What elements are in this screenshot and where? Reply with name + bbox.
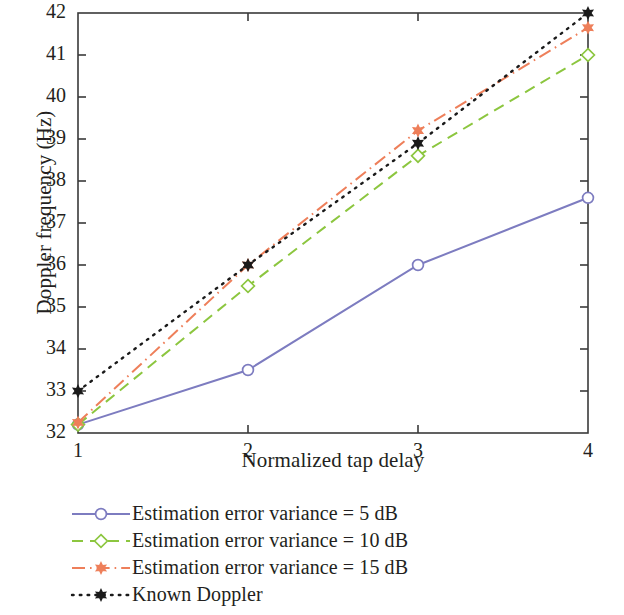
series-line <box>78 198 588 425</box>
series-3 <box>73 22 593 428</box>
legend-item: Known Doppler <box>70 581 540 608</box>
legend-label: Known Doppler <box>132 583 263 606</box>
x-tick-label: 4 <box>568 439 608 462</box>
y-tick-label: 34 <box>26 336 66 359</box>
y-tick-label: 36 <box>26 252 66 275</box>
data-point-marker <box>413 260 424 271</box>
data-point-marker <box>96 508 107 519</box>
chart-legend: Estimation error variance = 5 dBEstimati… <box>70 500 540 608</box>
plot-canvas <box>0 0 624 490</box>
data-point-marker <box>73 385 83 396</box>
plot-frame <box>78 13 588 433</box>
legend-item: Estimation error variance = 10 dB <box>70 527 540 554</box>
series-2 <box>72 49 595 431</box>
data-point-marker <box>583 192 594 203</box>
doppler-frequency-chart: Doppler frequency (Hz) Normalized tap de… <box>0 0 624 615</box>
legend-key-swatch <box>70 583 132 607</box>
data-point-marker <box>583 7 593 18</box>
data-point-marker <box>96 562 106 573</box>
legend-key-swatch <box>70 502 132 526</box>
y-tick-label: 39 <box>26 126 66 149</box>
data-point-marker <box>95 534 108 547</box>
y-tick-label: 41 <box>26 42 66 65</box>
data-point-marker <box>583 22 593 33</box>
y-tick-label: 33 <box>26 378 66 401</box>
y-tick-label: 37 <box>26 210 66 233</box>
legend-key-swatch <box>70 556 132 580</box>
series-4 <box>73 7 593 396</box>
legend-key-swatch <box>70 529 132 553</box>
y-tick-label: 42 <box>26 0 66 23</box>
data-point-marker <box>412 149 425 162</box>
legend-label: Estimation error variance = 5 dB <box>132 502 398 525</box>
data-point-marker <box>582 49 595 62</box>
series-line <box>78 13 588 391</box>
legend-item: Estimation error variance = 15 dB <box>70 554 540 581</box>
series-line <box>78 55 588 425</box>
x-axis-label: Normalized tap delay <box>78 448 588 473</box>
y-tick-label: 38 <box>26 168 66 191</box>
legend-label: Estimation error variance = 15 dB <box>132 556 408 579</box>
legend-item: Estimation error variance = 5 dB <box>70 500 540 527</box>
x-tick-label: 2 <box>228 439 268 462</box>
x-tick-label: 3 <box>398 439 438 462</box>
data-point-marker <box>96 589 106 600</box>
data-point-marker <box>243 365 254 376</box>
y-tick-label: 35 <box>26 294 66 317</box>
legend-label: Estimation error variance = 10 dB <box>132 529 408 552</box>
plot-area: Doppler frequency (Hz) Normalized tap de… <box>0 0 624 490</box>
data-point-marker <box>413 138 423 149</box>
series-1 <box>73 192 594 430</box>
x-tick-label: 1 <box>58 439 98 462</box>
y-tick-label: 40 <box>26 84 66 107</box>
